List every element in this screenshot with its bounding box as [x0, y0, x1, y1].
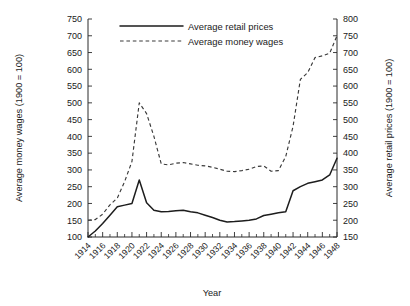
legend-label-money-wages: Average money wages [188, 36, 284, 47]
y2-tick-label: 350 [343, 165, 358, 175]
y-tick-label: 550 [67, 81, 82, 91]
y-tick-label: 350 [67, 148, 82, 158]
y-axis-title: Average money wages (1900 = 100) [14, 54, 24, 202]
y2-tick-label: 550 [343, 98, 358, 108]
y-tick-label: 400 [67, 132, 82, 142]
y2-tick-label: 650 [343, 65, 358, 75]
y2-axis-title: Average retail prices (1900 = 100) [384, 59, 394, 198]
y2-tick-label: 200 [343, 216, 358, 226]
y-tick-label: 150 [67, 216, 82, 226]
y-tick-label: 700 [67, 31, 82, 41]
y2-tick-label: 500 [343, 115, 358, 125]
y2-tick-label: 450 [343, 132, 358, 142]
y2-tick-label: 150 [343, 232, 358, 242]
y-tick-label: 250 [67, 182, 82, 192]
y2-tick-label: 600 [343, 81, 358, 91]
y2-tick-label: 800 [343, 14, 358, 24]
y-tick-label: 450 [67, 115, 82, 125]
y-tick-label: 750 [67, 14, 82, 24]
chart-figure: 1001502002503003504004505005506006507007… [0, 0, 410, 306]
y2-tick-label: 300 [343, 182, 358, 192]
y-tick-label: 200 [67, 199, 82, 209]
x-axis-title: Year [203, 288, 222, 298]
chart-svg: 1001502002503003504004505005506006507007… [0, 0, 410, 306]
y2-tick-label: 700 [343, 48, 358, 58]
y-tick-label: 650 [67, 48, 82, 58]
legend-label-retail-prices: Average retail prices [188, 21, 274, 32]
y-tick-label: 500 [67, 98, 82, 108]
y-tick-label: 100 [67, 232, 82, 242]
y2-tick-label: 250 [343, 199, 358, 209]
y2-tick-label: 750 [343, 31, 358, 41]
y-tick-label: 300 [67, 165, 82, 175]
y-tick-label: 600 [67, 65, 82, 75]
y2-tick-label: 400 [343, 148, 358, 158]
